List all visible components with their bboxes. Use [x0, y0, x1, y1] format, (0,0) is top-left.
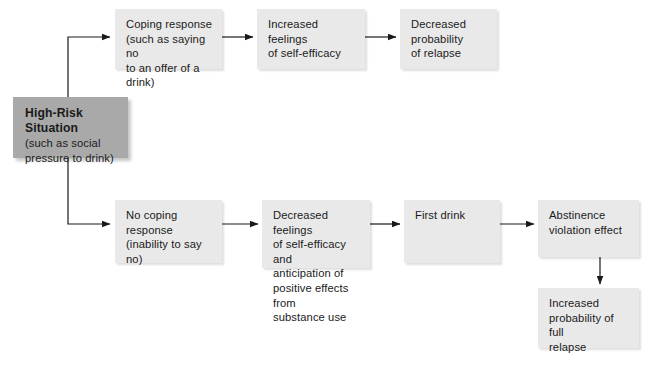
node-decreased-probability-relapse-label: Decreased probability of relapse: [411, 17, 488, 61]
node-increased-self-efficacy-label: Increased feelings of self-efficacy: [268, 17, 356, 61]
node-increased-probability-full-relapse[interactable]: Increased probability of full relapse: [538, 288, 639, 348]
node-coping-response[interactable]: Coping response (such as saying no to an…: [115, 9, 222, 69]
node-increased-self-efficacy[interactable]: Increased feelings of self-efficacy: [257, 9, 365, 69]
node-first-drink-label: First drink: [415, 208, 491, 223]
node-no-coping-response-label: No coping response (inability to say no): [126, 208, 213, 266]
node-high-risk-situation-title: High-Risk Situation: [25, 106, 119, 136]
node-abstinence-violation-effect[interactable]: Abstinence violation effect: [538, 200, 639, 257]
node-no-coping-response[interactable]: No coping response (inability to say no): [115, 200, 222, 263]
node-abstinence-violation-effect-label: Abstinence violation effect: [549, 208, 630, 237]
node-first-drink[interactable]: First drink: [404, 200, 500, 263]
node-high-risk-situation-subtitle: (such as social pressure to drink): [25, 136, 119, 165]
node-high-risk-situation[interactable]: High-Risk Situation (such as social pres…: [13, 97, 128, 158]
node-decreased-probability-relapse[interactable]: Decreased probability of relapse: [400, 9, 497, 69]
node-decreased-self-efficacy-label: Decreased feelings of self-efficacy and …: [273, 208, 361, 325]
node-coping-response-label: Coping response (such as saying no to an…: [126, 17, 213, 90]
node-decreased-self-efficacy[interactable]: Decreased feelings of self-efficacy and …: [262, 200, 370, 268]
flowchart-canvas: High-Risk Situation (such as social pres…: [0, 0, 657, 365]
node-increased-probability-full-relapse-label: Increased probability of full relapse: [549, 296, 630, 354]
